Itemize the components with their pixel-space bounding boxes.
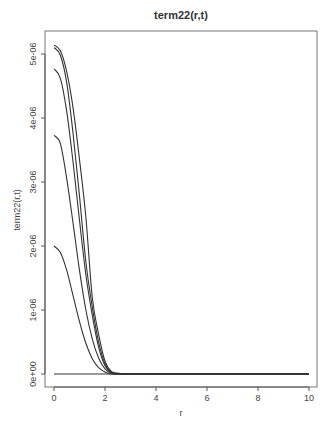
x-tick-label: 10: [304, 393, 314, 403]
plot-box: [45, 31, 317, 387]
series-line-4: [54, 135, 309, 374]
y-tick-label: 5e-06: [28, 42, 38, 65]
series-line-3: [54, 69, 309, 374]
y-tick-label: 4e-06: [28, 106, 38, 129]
chart-title: term22(r,t): [154, 9, 208, 21]
y-tick-label: 3e-06: [28, 170, 38, 193]
x-tick-label: 6: [204, 393, 209, 403]
series-lines: [54, 45, 309, 374]
x-tick-label: 0: [51, 393, 56, 403]
y-axis: 0e+001e-062e-063e-064e-065e-06: [28, 42, 45, 386]
x-axis: 0246810: [51, 387, 314, 403]
x-tick-label: 8: [255, 393, 260, 403]
y-tick-label: 0e+00: [28, 361, 38, 386]
line-chart: term22(r,t) 0246810 0e+001e-062e-063e-06…: [0, 0, 330, 431]
y-axis-label: term22(r,t): [12, 189, 22, 231]
x-tick-label: 4: [153, 393, 158, 403]
y-tick-label: 1e-06: [28, 298, 38, 321]
y-tick-label: 2e-06: [28, 234, 38, 257]
x-axis-label: r: [180, 408, 183, 418]
series-line-1: [54, 45, 309, 374]
series-line-2: [54, 48, 309, 374]
x-tick-label: 2: [102, 393, 107, 403]
